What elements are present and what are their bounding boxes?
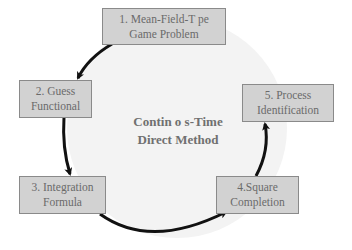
step-1-box: 1. Mean-Field-T pe Game Problem (102, 8, 226, 45)
step-5-line2: Identification (243, 103, 333, 118)
step-2-box: 2. Guess Functional (19, 80, 92, 118)
step-4-line1: 4.Square (217, 180, 298, 195)
step-3-line1: 3. Integration (20, 180, 105, 195)
step-1-line2: Game Problem (103, 27, 225, 42)
step-5-box: 5. Process Identification (242, 84, 334, 122)
center-title-line2: Direct Method (112, 131, 244, 149)
step-2-line1: 2. Guess (20, 84, 91, 99)
step-4-box: 4.Square Completion (216, 176, 299, 214)
step-3-box: 3. Integration Formula (19, 176, 106, 214)
step-2-line2: Functional (20, 99, 91, 114)
step-4-line2: Completion (217, 195, 298, 210)
step-1-line1: 1. Mean-Field-T pe (103, 12, 225, 27)
step-5-line1: 5. Process (243, 88, 333, 103)
center-title-line1: Contin o s-Time (112, 113, 244, 131)
center-title: Contin o s-Time Direct Method (112, 113, 244, 149)
step-3-line2: Formula (20, 195, 105, 210)
